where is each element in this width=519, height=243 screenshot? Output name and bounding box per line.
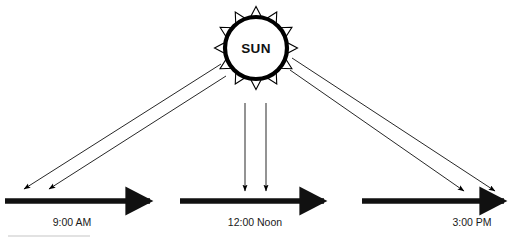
time-label-afternoon: 3:00 PM xyxy=(452,216,491,228)
ray-arrow-afternoon-2 xyxy=(290,70,464,191)
ray-arrow-morning-1 xyxy=(24,64,221,189)
ray-arrow-afternoon-1 xyxy=(292,58,495,191)
time-label-noon: 12:00 Noon xyxy=(228,216,282,228)
diagram-canvas: SUN 9:00 AM 12:00 Noon 3:00 PM xyxy=(0,0,519,243)
ray-arrow-morning-2 xyxy=(49,76,226,189)
sun-label: SUN xyxy=(241,41,271,56)
sun-shadow-diagram: SUN 9:00 AM 12:00 Noon 3:00 PM xyxy=(0,0,519,243)
time-label-morning: 9:00 AM xyxy=(53,216,92,228)
